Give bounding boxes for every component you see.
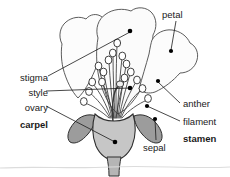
dot-petal	[169, 49, 173, 53]
anther	[100, 68, 107, 76]
dot-filament	[145, 104, 149, 108]
anther	[105, 56, 112, 64]
label-sepal: sepal	[143, 143, 166, 153]
anther	[80, 98, 87, 106]
stigma	[116, 81, 123, 87]
anther	[86, 88, 93, 96]
anther	[119, 52, 126, 60]
label-ovary: ovary	[25, 103, 48, 113]
anther	[95, 62, 102, 70]
label-stigma: stigma	[20, 73, 48, 83]
dot-stigma	[128, 29, 133, 34]
dot-ovary	[113, 140, 118, 145]
anther	[139, 85, 146, 93]
label-petal: petal	[162, 10, 183, 20]
label-filament: filament	[183, 117, 216, 127]
flower-diagram: stigma style ovary carpel petal anther f…	[0, 0, 230, 177]
label-carpel: carpel	[20, 120, 48, 130]
label-style: style	[28, 88, 48, 98]
anther	[134, 76, 141, 84]
leader-anther	[158, 82, 180, 103]
anther	[145, 95, 152, 103]
sepal-right	[134, 115, 162, 143]
anther	[89, 78, 96, 86]
anther	[123, 60, 130, 68]
dot-anther	[156, 79, 160, 83]
dot-sepal	[153, 117, 157, 121]
anther	[127, 68, 134, 76]
anther	[99, 78, 106, 86]
receptacle	[93, 114, 135, 160]
label-anther: anther	[183, 99, 210, 109]
sepal-left	[68, 115, 96, 143]
label-stamen: stamen	[183, 134, 216, 144]
anther	[121, 74, 128, 82]
anther	[109, 49, 116, 57]
dot-style	[128, 86, 133, 91]
